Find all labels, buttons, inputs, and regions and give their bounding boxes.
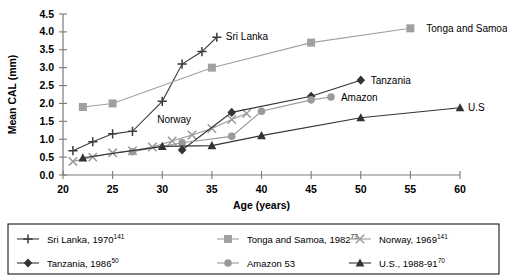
x-tick-label: 60: [454, 183, 466, 195]
y-tick-label: 3.0: [39, 61, 54, 73]
x-tick-label: 25: [107, 183, 119, 195]
y-axis-title: Mean CAL (mm): [6, 55, 18, 135]
x-tick-label: 50: [355, 183, 367, 195]
data-point-cross: [188, 131, 196, 139]
legend-superscript: 141: [437, 233, 448, 240]
y-tick-label: 1.5: [39, 115, 54, 127]
series-inline-label-2: Norway: [157, 114, 191, 125]
data-point-circle: [258, 108, 266, 116]
data-point-plus: [178, 59, 187, 68]
y-tick-label: 2.0: [39, 97, 54, 109]
data-point-square: [109, 99, 117, 107]
data-point-circle: [129, 148, 137, 156]
data-point-circle: [224, 259, 232, 267]
data-point-square: [307, 39, 315, 47]
y-tick-label: 2.5: [39, 79, 54, 91]
data-point-diamond: [178, 145, 187, 154]
legend-label: U.S., 1988-9170: [379, 257, 445, 269]
series-inline-label-0: Sri Lanka: [226, 31, 269, 42]
data-point-plus: [108, 129, 117, 138]
legend-label: Amazon 53: [247, 258, 295, 269]
y-tick-label: 0.0: [39, 169, 54, 181]
y-tick-label: 3.5: [39, 43, 54, 55]
series-inline-label-1: Tonga and Samoa: [426, 23, 507, 34]
x-tick-label: 35: [206, 183, 218, 195]
series-inline-label-4: Amazon: [341, 92, 378, 103]
x-axis-title: Age (years): [233, 199, 290, 211]
chart-figure: 0.00.51.01.52.02.53.03.54.04.52025303540…: [0, 0, 507, 280]
data-point-plus: [88, 137, 97, 146]
legend-superscript: 50: [111, 257, 119, 264]
data-point-square: [224, 235, 232, 243]
y-tick-label: 4.5: [39, 8, 54, 20]
data-point-circle: [178, 139, 186, 147]
data-point-triangle: [456, 103, 465, 111]
data-point-diamond: [356, 76, 365, 85]
data-point-square: [208, 64, 216, 72]
series-u-s: U.S: [78, 102, 485, 161]
y-tick-label: 4.0: [39, 25, 54, 37]
y-tick-label: 1.0: [39, 133, 54, 145]
x-tick-label: 40: [256, 183, 268, 195]
series-tonga-and-samoa: Tonga and Samoa: [79, 23, 507, 111]
data-point-square: [79, 103, 87, 111]
data-point-cross: [69, 157, 77, 165]
legend-superscript: 141: [114, 233, 125, 240]
chart-legend: Sri Lanka, 1970141Tonga and Samoa, 19827…: [8, 224, 499, 274]
data-point-square: [406, 24, 414, 32]
x-tick-label: 55: [405, 183, 417, 195]
data-point-circle: [307, 96, 315, 104]
data-point-plus: [68, 146, 77, 155]
legend-label: Sri Lanka, 1970141: [47, 233, 125, 245]
x-tick-label: 20: [57, 183, 69, 195]
legend-label: Tanzania, 198650: [47, 257, 119, 269]
x-tick-label: 30: [156, 183, 168, 195]
data-point-circle: [228, 133, 236, 141]
y-tick-label: 0.5: [39, 151, 54, 163]
x-tick-label: 45: [305, 183, 317, 195]
legend-superscript: 70: [438, 257, 446, 264]
legend-label: Tonga and Samoa, 198273: [247, 233, 358, 245]
series-tanzania: Tanzania: [178, 75, 411, 155]
series-inline-label-5: U.S: [468, 102, 485, 113]
series-inline-label-3: Tanzania: [371, 75, 411, 86]
chart-canvas: 0.00.51.01.52.02.53.03.54.04.52025303540…: [0, 0, 507, 280]
data-point-circle: [327, 93, 335, 101]
